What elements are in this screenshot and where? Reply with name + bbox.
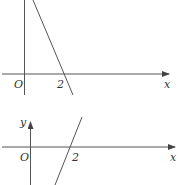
- bottom-graph: y O 2 x: [2, 116, 177, 185]
- top-intercept-label: 2: [56, 78, 64, 91]
- top-x-label: x: [164, 78, 171, 91]
- bottom-intercept-label: 2: [71, 151, 79, 164]
- top-line: [33, 0, 73, 95]
- bottom-origin-label: O: [20, 151, 29, 164]
- top-graph: O 2 x: [2, 0, 171, 95]
- top-origin-label: O: [14, 78, 23, 91]
- graphs-figure: O 2 x y O 2 x: [0, 0, 182, 185]
- bottom-y-label: y: [19, 116, 27, 129]
- bottom-x-label: x: [170, 151, 177, 164]
